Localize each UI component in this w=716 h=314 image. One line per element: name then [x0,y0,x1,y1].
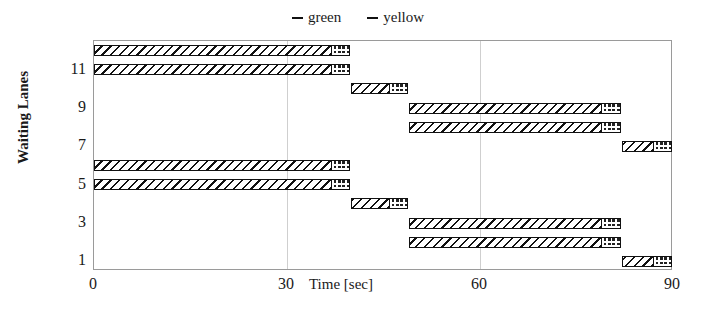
legend-item-green: green [292,10,341,25]
y-tick-label: 1 [56,252,86,268]
yellow-phase-segment [601,237,620,248]
green-phase-segment [351,198,390,209]
x-axis-label: Time [sec] [0,276,716,292]
green-phase-segment [409,103,602,114]
lane-bar [94,64,351,75]
yellow-phase-segment [389,83,408,94]
yellow-phase-segment [601,122,620,133]
y-tick-label: 5 [56,176,86,192]
green-phase-segment [622,256,654,267]
plot-area [93,40,672,270]
green-phase-segment [94,179,332,190]
lane-bar [351,198,409,209]
lane-bar [94,179,351,190]
y-tick-label: 11 [56,61,86,77]
yellow-phase-segment [389,198,408,209]
green-phase-segment [622,141,654,152]
yellow-phase-segment [331,45,350,56]
gridline [480,41,481,269]
y-axis-ticks: 1197531 [46,40,86,270]
x-axis-label-text: Time [sec] [309,276,373,292]
lane-bar [622,256,673,267]
legend-item-yellow: yellow [367,10,424,25]
green-phase-segment [94,160,332,171]
yellow-phase-segment [331,160,350,171]
lane-bar [409,122,621,133]
y-tick-label: 3 [56,214,86,230]
lane-bar [622,141,673,152]
green-phase-segment [409,122,602,133]
legend-label-yellow: yellow [383,10,424,25]
lane-bar [409,218,621,229]
lane-bar [94,45,351,56]
lane-bar [351,83,409,94]
chart-legend: green yellow [0,10,716,25]
green-phase-segment [94,45,332,56]
gantt-chart: green yellow 1197531 Waiting Lanes 03060… [0,0,716,314]
legend-label-green: green [308,10,341,25]
yellow-phase-segment [601,218,620,229]
lane-bar [94,160,351,171]
y-tick-label: 9 [56,99,86,115]
lane-bar [409,237,621,248]
y-axis-label: Waiting Lanes [16,48,31,188]
green-swatch-icon [292,17,303,19]
yellow-phase-segment [653,256,672,267]
green-phase-segment [409,218,602,229]
lane-bar [409,103,621,114]
green-phase-segment [351,83,390,94]
y-tick-label: 7 [56,137,86,153]
green-phase-segment [409,237,602,248]
yellow-phase-segment [331,64,350,75]
yellow-swatch-icon [367,17,378,19]
yellow-phase-segment [601,103,620,114]
yellow-phase-segment [331,179,350,190]
green-phase-segment [94,64,332,75]
yellow-phase-segment [653,141,672,152]
